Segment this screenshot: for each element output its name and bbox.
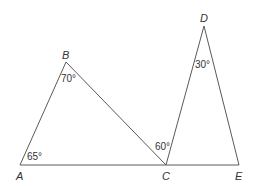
- vertex-label-d: D: [200, 12, 208, 24]
- vertex-label-c: C: [162, 170, 170, 182]
- angle-label-b: 70°: [61, 73, 76, 84]
- angle-label-a: 65°: [27, 151, 42, 162]
- segment-ab: [20, 62, 66, 165]
- angle-label-d: 30°: [195, 59, 210, 70]
- geometry-diagram: A B C D E 65° 70° 60° 30°: [0, 0, 256, 186]
- vertex-label-a: A: [15, 170, 23, 182]
- vertex-label-b: B: [62, 49, 69, 61]
- segment-de: [204, 26, 239, 165]
- segment-cd: [166, 26, 204, 165]
- segment-bc: [66, 62, 166, 165]
- angle-label-c: 60°: [155, 141, 170, 152]
- vertex-label-e: E: [235, 170, 243, 182]
